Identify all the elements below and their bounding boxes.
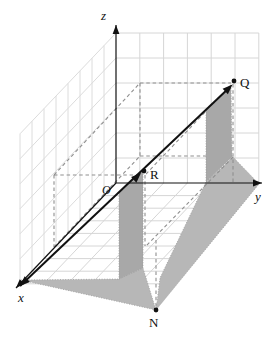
point-dot-N: [154, 308, 159, 313]
base-shadow-triangle: [21, 268, 156, 310]
label-point-N: N: [149, 315, 159, 330]
label-y-axis: y: [253, 189, 261, 204]
x-axis: [16, 183, 116, 288]
label-origin: O: [102, 183, 111, 197]
curtain-under-OR: [119, 170, 143, 279]
label-point-R: R: [150, 167, 159, 182]
label-z-axis: z: [100, 8, 106, 23]
figure-stage: z y x O R Q N: [0, 0, 276, 341]
figure-canvas: z y x O R Q N: [0, 0, 276, 341]
dashed-box-edge: [54, 83, 140, 175]
label-x-axis: x: [17, 290, 24, 305]
label-point-Q: Q: [240, 75, 250, 90]
point-dot-Q: [232, 79, 237, 84]
z-axis-arrowhead: [113, 25, 120, 34]
point-dot-R: [142, 169, 147, 174]
